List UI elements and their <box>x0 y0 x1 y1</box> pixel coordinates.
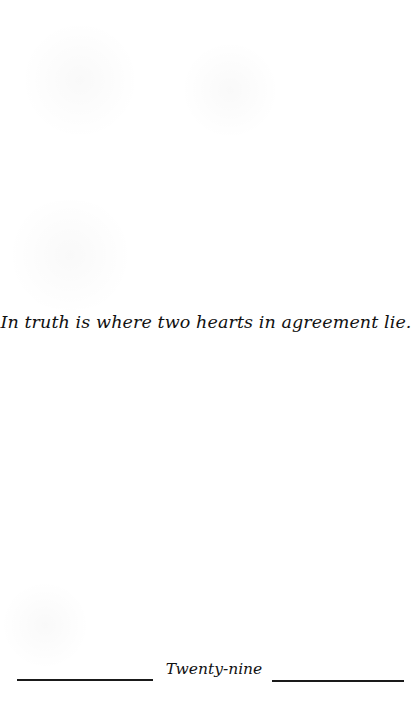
background-watermark <box>0 580 90 670</box>
background-watermark <box>20 20 140 140</box>
document-page: In truth is where two hearts in agreemen… <box>0 0 412 712</box>
footer-rule-left <box>17 679 153 681</box>
page-number-label: Twenty-nine <box>160 660 268 678</box>
footer-rule-right <box>272 680 404 682</box>
background-watermark <box>180 40 280 140</box>
background-watermark <box>0 200 140 310</box>
page-footer: Twenty-nine <box>0 658 412 688</box>
quote-text: In truth is where two hearts in agreemen… <box>0 312 412 332</box>
